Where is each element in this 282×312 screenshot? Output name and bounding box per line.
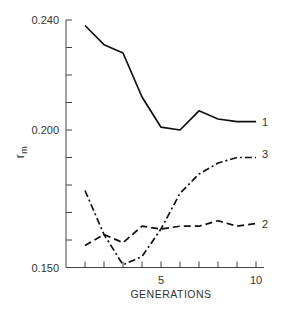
x-tick-label: 5 bbox=[158, 274, 164, 286]
line-chart: 0.2400.2000.150 510 123 GENERATIONS rm bbox=[0, 0, 282, 312]
series-2-line bbox=[85, 221, 256, 246]
y-axis: 0.2400.2000.150 bbox=[31, 14, 72, 274]
y-axis-title: rm bbox=[13, 146, 29, 159]
x-tick-label: 10 bbox=[250, 274, 262, 286]
series-1-line bbox=[85, 26, 256, 131]
x-axis-title: GENERATIONS bbox=[130, 288, 211, 300]
x-axis: 510 bbox=[66, 262, 264, 286]
series-3-label: 3 bbox=[262, 148, 268, 160]
y-tick-label: 0.200 bbox=[31, 124, 59, 136]
y-tick-label: 0.240 bbox=[31, 14, 59, 26]
y-tick-label: 0.150 bbox=[31, 262, 59, 274]
series-1-label: 1 bbox=[262, 116, 268, 128]
series-lines bbox=[85, 26, 256, 265]
svg-text:rm: rm bbox=[13, 146, 29, 159]
series-labels: 123 bbox=[262, 116, 268, 230]
series-2-label: 2 bbox=[262, 218, 268, 230]
y-axis-title-sub: m bbox=[19, 146, 29, 154]
series-3-line bbox=[85, 158, 256, 265]
